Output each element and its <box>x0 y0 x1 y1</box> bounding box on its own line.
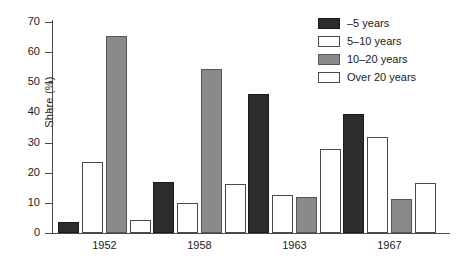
legend-swatch-icon <box>318 54 340 65</box>
legend-item: Over 20 years <box>318 69 416 85</box>
bar <box>58 222 79 233</box>
bar <box>248 94 269 233</box>
bar <box>106 36 127 233</box>
bar <box>130 220 151 233</box>
y-axis-tick-label: 10 <box>28 196 40 209</box>
legend-label: –5 years <box>347 17 389 30</box>
legend-item: –5 years <box>318 15 416 31</box>
x-axis-group-label: 1958 <box>153 239 246 252</box>
bar <box>296 197 317 233</box>
bar-group <box>58 22 154 233</box>
legend-swatch-icon <box>318 36 340 47</box>
bar <box>177 203 198 233</box>
x-axis-line <box>52 233 450 234</box>
bar <box>320 149 341 233</box>
y-axis-tick-label: 60 <box>28 45 40 58</box>
y-axis-tick: 0 <box>45 233 53 234</box>
bar <box>272 195 293 233</box>
y-axis-tick-label: 50 <box>28 75 40 88</box>
bar <box>415 183 436 233</box>
y-axis-tick-label: 70 <box>28 15 40 28</box>
y-axis-tick-label: 40 <box>28 105 40 118</box>
bar <box>225 184 246 233</box>
legend-label: 10–20 years <box>347 53 408 66</box>
chart-legend: –5 years5–10 years10–20 yearsOver 20 yea… <box>318 15 416 87</box>
y-axis-tick-label: 30 <box>28 136 40 149</box>
y-axis-tick-label: 0 <box>34 226 40 239</box>
legend-swatch-icon <box>318 18 340 29</box>
bar-group <box>153 22 249 233</box>
bar <box>391 199 412 233</box>
bar <box>343 114 364 233</box>
legend-item: 10–20 years <box>318 51 416 67</box>
legend-label: 5–10 years <box>347 35 401 48</box>
bar-chart: Share (%) 010203040506070 19521958196319… <box>0 0 462 265</box>
bar <box>82 162 103 233</box>
legend-label: Over 20 years <box>347 71 416 84</box>
legend-item: 5–10 years <box>318 33 416 49</box>
bar <box>201 69 222 233</box>
bar <box>153 182 174 233</box>
x-axis-group-label: 1967 <box>343 239 436 252</box>
x-axis-group-label: 1952 <box>58 239 151 252</box>
legend-swatch-icon <box>318 72 340 83</box>
bar <box>367 137 388 233</box>
x-axis-group-label: 1963 <box>248 239 341 252</box>
y-axis-tick-label: 20 <box>28 166 40 179</box>
